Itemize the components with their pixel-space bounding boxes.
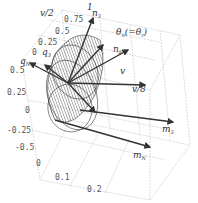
svg-text:q3: q3 [42, 47, 51, 58]
svg-text:0: 0 [25, 106, 30, 115]
svg-text:v: v [120, 66, 125, 76]
svg-text:v/8: v/8 [132, 84, 146, 94]
svg-text:m3: m3 [162, 124, 174, 135]
svg-text:0.1: 0.1 [55, 173, 70, 182]
svg-text:qN: qN [20, 56, 31, 67]
svg-text:0.2: 0.2 [87, 185, 102, 194]
bottom-axis-ticks: 0 0.1 0.2 [36, 159, 102, 194]
svg-text:θn(=θr): θn(=θr) [116, 27, 148, 38]
svg-text:0.75: 0.75 [64, 15, 83, 24]
svg-text:n3: n3 [92, 8, 101, 19]
3d-plot: 0.75 0.5 0.25 0 0.5 0.25 0 -0.25 -0.5 0 … [0, 0, 198, 203]
svg-text:0.25: 0.25 [7, 88, 26, 97]
svg-text:0: 0 [36, 159, 41, 168]
svg-text:-0.5: -0.5 [15, 143, 34, 152]
svg-text:0.5: 0.5 [55, 27, 70, 36]
svg-text:0.25: 0.25 [38, 38, 57, 47]
svg-text:0.5: 0.5 [10, 66, 25, 75]
svg-text:-0.25: -0.25 [7, 126, 31, 135]
svg-text:mN: mN [133, 150, 147, 161]
svg-text:0: 0 [32, 48, 37, 57]
left-axis-ticks: 0.5 0.25 0 -0.25 -0.5 [7, 66, 34, 152]
svg-text:nβ: nβ [113, 44, 122, 56]
svg-text:v/2: v/2 [40, 8, 54, 18]
